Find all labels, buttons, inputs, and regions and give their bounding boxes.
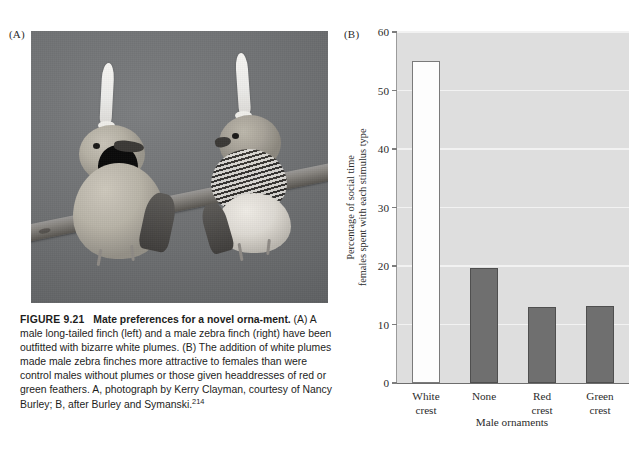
y-axis-tick-label: 10 [378, 319, 389, 331]
figure-caption-body: (A) A male long-tailed finch (left) and … [20, 314, 332, 410]
plot-area: 0102030405060WhitecrestNoneRedcrestGreen… [396, 32, 629, 384]
x-axis-tick-label: Greencrest [586, 390, 613, 417]
figure-number: FIGURE 9.21 [20, 314, 85, 325]
photo-frame [31, 31, 328, 303]
y-axis-title-line2: females spent with each stimulus type [357, 129, 369, 287]
bar-green-crest[interactable] [586, 306, 614, 383]
bar-chart: Percentage of social time females spent … [340, 20, 630, 440]
y-axis-tick-label: 40 [378, 143, 389, 155]
x-axis-tick-label: Redcrest [531, 390, 552, 417]
y-axis-title: Percentage of social time females spent … [344, 32, 370, 383]
y-axis-tick-label: 20 [378, 260, 389, 272]
figure-caption: FIGURE 9.21 Mate preferences for a novel… [20, 313, 332, 412]
gridline [397, 31, 629, 32]
panel-a-label: (A) [9, 28, 25, 40]
figure-reference-number: 214 [192, 396, 204, 405]
y-axis-tick-label: 60 [378, 26, 389, 38]
y-axis-tick [392, 265, 397, 266]
y-axis-title-line1: Percentage of social time [345, 129, 357, 287]
y-axis-tick-label: 0 [383, 377, 389, 389]
photo-grain-overlay [31, 31, 328, 303]
figure-title: Mate preferences for a novel orna-­ment. [93, 314, 290, 325]
y-axis-tick [392, 148, 397, 149]
y-axis-tick [392, 382, 397, 383]
bar-white-crest[interactable] [412, 61, 440, 383]
y-axis-tick-label: 50 [378, 85, 389, 97]
finch-photograph [31, 31, 328, 303]
x-axis-title: Male ornaments [396, 416, 628, 428]
y-axis-tick [392, 207, 397, 208]
y-axis-tick [392, 324, 397, 325]
y-axis-tick [392, 31, 397, 32]
bar-red-crest[interactable] [528, 307, 556, 383]
y-axis-tick [392, 90, 397, 91]
y-axis-tick-label: 30 [378, 202, 389, 214]
x-axis-tick-label: Whitecrest [412, 390, 439, 417]
x-axis-tick-label: None [472, 390, 496, 404]
bar-none[interactable] [470, 268, 498, 383]
